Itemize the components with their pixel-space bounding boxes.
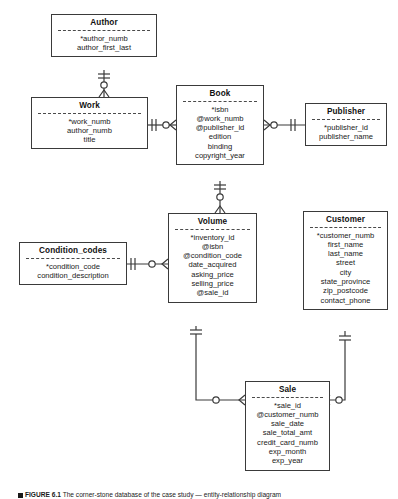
connector-book-publisher bbox=[264, 119, 305, 131]
entity-divider bbox=[38, 113, 141, 114]
connector-author-work bbox=[98, 70, 110, 97]
entity-sale-title: Sale bbox=[251, 385, 324, 395]
attribute-book-work-numb: @work_numb bbox=[182, 114, 258, 123]
attribute-author-first-last: author_first_last bbox=[57, 43, 151, 52]
connector-work-book bbox=[148, 119, 176, 131]
attribute-work-title: title bbox=[37, 135, 142, 144]
entity-divider bbox=[312, 119, 380, 120]
attribute-sale-date: sale_date bbox=[251, 419, 324, 428]
attribute-customer-state-province: state_province bbox=[309, 277, 382, 286]
attribute-sale-total-amt: sale_total_amt bbox=[251, 428, 324, 437]
figure-caption: FIGURE 6.1 The corner-stone database of … bbox=[18, 491, 281, 499]
attribute-sale-id: *sale_id bbox=[251, 401, 324, 410]
entity-customer[interactable]: Customer *customer_numb first_name last_… bbox=[303, 211, 388, 310]
attribute-volume-asking-price: asking_price bbox=[174, 270, 251, 279]
attribute-volume-selling-price: selling_price bbox=[174, 279, 251, 288]
attribute-publisher-id: *publisher_id bbox=[311, 123, 381, 132]
entity-condition-codes[interactable]: Condition_codes *condition_code conditio… bbox=[19, 242, 127, 285]
attribute-customer-zip-postcode: zip_postcode bbox=[309, 286, 382, 295]
entity-condition-codes-title: Condition_codes bbox=[25, 246, 121, 256]
entity-divider bbox=[175, 229, 250, 230]
attribute-customer-first-name: first_name bbox=[309, 240, 382, 249]
attribute-sale-exp-month: exp_month bbox=[251, 447, 324, 456]
entity-author-title: Author bbox=[57, 18, 151, 28]
entity-publisher-title: Publisher bbox=[311, 107, 381, 117]
entity-book-title: Book bbox=[182, 89, 258, 99]
entity-divider bbox=[26, 258, 120, 259]
attribute-volume-inventory-id: *inventory_id bbox=[174, 233, 251, 242]
attribute-condition-code: *condition_code bbox=[25, 262, 121, 271]
caption-marker-icon bbox=[18, 493, 23, 498]
attribute-book-edition: edition bbox=[182, 132, 258, 141]
entity-customer-title: Customer bbox=[309, 215, 382, 225]
entity-divider bbox=[183, 101, 257, 102]
entity-work[interactable]: Work *work_numb author_numb title bbox=[31, 97, 148, 149]
attribute-publisher-name: publisher_name bbox=[311, 132, 381, 141]
entity-volume[interactable]: Volume *inventory_id @isbn @condition_co… bbox=[168, 213, 257, 303]
figure-caption-text: The corner-stone database of the case st… bbox=[63, 491, 281, 498]
entity-volume-title: Volume bbox=[174, 217, 251, 227]
connector-condition-volume bbox=[127, 258, 168, 270]
figure-caption-label: FIGURE 6.1 bbox=[25, 491, 61, 498]
attribute-sale-credit-card-numb: credit_card_numb bbox=[251, 438, 324, 447]
attribute-book-copyright-year: copyright_year bbox=[182, 151, 258, 160]
entity-publisher[interactable]: Publisher *publisher_id publisher_name bbox=[305, 103, 387, 146]
entity-sale[interactable]: Sale *sale_id @customer_numb sale_date s… bbox=[245, 381, 330, 471]
attribute-condition-description: condition_description bbox=[25, 271, 121, 280]
entity-divider bbox=[310, 227, 381, 228]
attribute-sale-customer-numb: @customer_numb bbox=[251, 410, 324, 419]
attribute-book-isbn: *isbn bbox=[182, 105, 258, 114]
entity-work-title: Work bbox=[37, 101, 142, 111]
attribute-book-publisher-id: @publisher_id bbox=[182, 123, 258, 132]
attribute-sale-exp-year: exp_year bbox=[251, 456, 324, 465]
attribute-customer-numb: *customer_numb bbox=[309, 231, 382, 240]
attribute-customer-city: city bbox=[309, 268, 382, 277]
entity-book[interactable]: Book *isbn @work_numb @publisher_id edit… bbox=[176, 85, 264, 165]
entity-author[interactable]: Author *author_numb author_first_last bbox=[51, 14, 157, 57]
attribute-work-numb: *work_numb bbox=[37, 117, 142, 126]
attribute-customer-street: street bbox=[309, 258, 382, 267]
attribute-volume-sale-id: @sale_id bbox=[174, 288, 251, 297]
entity-divider bbox=[58, 30, 150, 31]
attribute-volume-date-acquired: date_acquired bbox=[174, 260, 251, 269]
attribute-book-binding: binding bbox=[182, 142, 258, 151]
attribute-customer-last-name: last_name bbox=[309, 249, 382, 258]
connector-volume-sale bbox=[190, 326, 245, 405]
attribute-author-numb: *author_numb bbox=[57, 34, 151, 43]
attribute-work-author-numb: author_numb bbox=[37, 126, 142, 135]
attribute-volume-isbn: @isbn bbox=[174, 242, 251, 251]
attribute-customer-contact-phone: contact_phone bbox=[309, 296, 382, 305]
attribute-volume-condition-code: @condition_code bbox=[174, 251, 251, 260]
entity-divider bbox=[252, 397, 323, 398]
connector-book-volume bbox=[214, 181, 226, 213]
